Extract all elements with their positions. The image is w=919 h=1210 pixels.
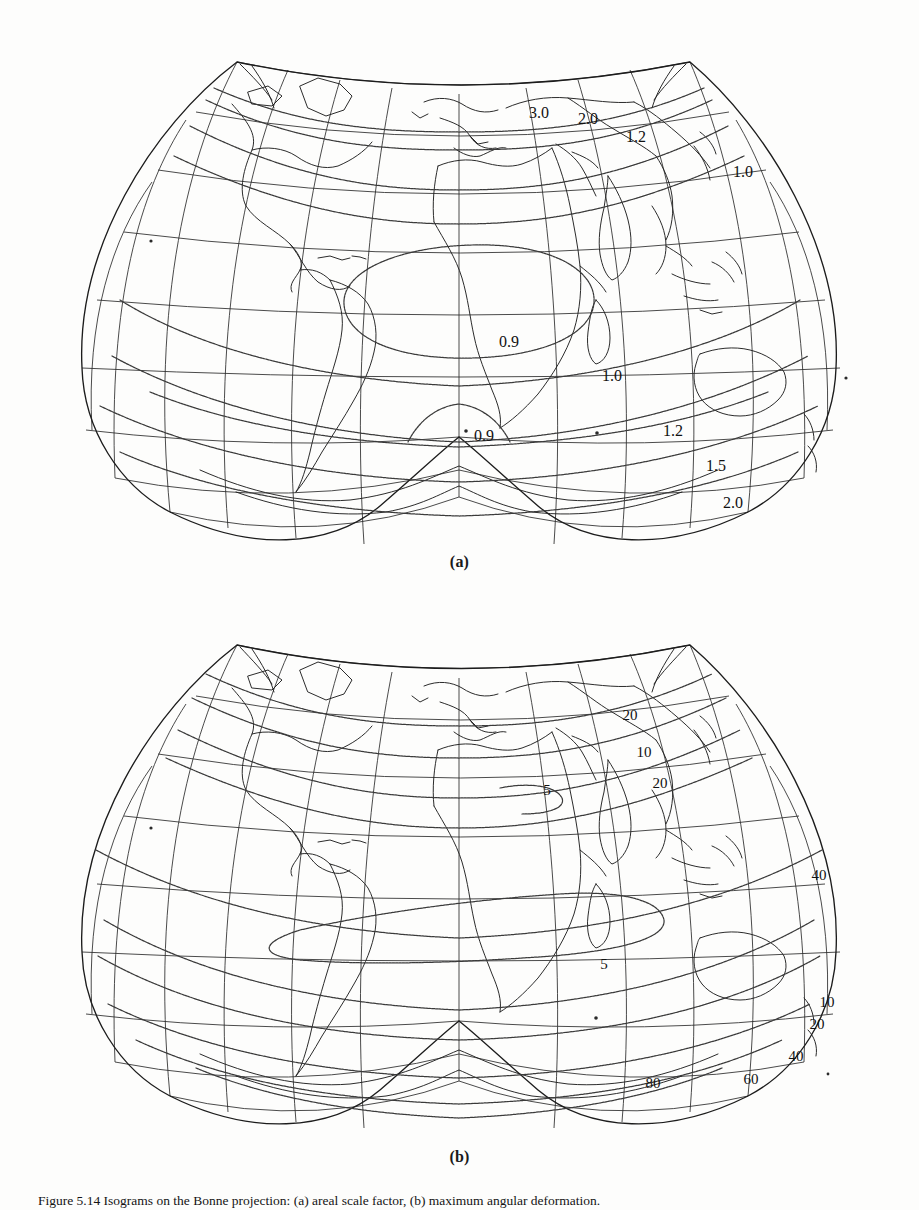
isoline-label-b-3: 20 bbox=[653, 775, 668, 791]
isoline-label-b-10: 80 bbox=[646, 1075, 661, 1091]
isoline-label-b-2: 5 bbox=[543, 782, 551, 798]
isoline-label-b-8: 40 bbox=[789, 1048, 804, 1064]
isoline-label-a-8: 1.5 bbox=[706, 457, 726, 474]
graticule-parallels-b bbox=[82, 645, 840, 1111]
isoline-label-a-6: 0.9 bbox=[474, 427, 494, 444]
figure-b: 20 10 5 20 40 5 10 20 40 60 80 (b) bbox=[0, 600, 919, 1180]
isoline-label-b-5: 5 bbox=[600, 956, 608, 972]
map-b-angular-deformation: 20 10 5 20 40 5 10 20 40 60 80 bbox=[0, 600, 919, 1180]
isoline-label-a-1: 2.0 bbox=[578, 110, 598, 127]
isoline-label-b-0: 20 bbox=[623, 707, 638, 723]
figure-a: 3.0 2.0 1.2 1.0 0.9 1.0 0.9 1.2 1.5 2.0 … bbox=[0, 0, 919, 600]
scan-specks-b bbox=[149, 826, 829, 1075]
isoline-label-a-7: 1.2 bbox=[663, 422, 683, 439]
isoline-label-a-0: 3.0 bbox=[529, 104, 549, 121]
isoline-label-b-4: 40 bbox=[812, 867, 827, 883]
isoline-label-a-4: 0.9 bbox=[499, 333, 519, 350]
isoline-label-b-7: 20 bbox=[810, 1016, 825, 1032]
isoline-label-a-2: 1.2 bbox=[626, 128, 646, 145]
isoline-label-b-6: 10 bbox=[820, 994, 835, 1010]
isoline-label-b-1: 10 bbox=[637, 744, 652, 760]
isoline-label-b-9: 60 bbox=[744, 1071, 759, 1087]
map-a-areal-scale-factor: 3.0 2.0 1.2 1.0 0.9 1.0 0.9 1.2 1.5 2.0 bbox=[0, 0, 919, 600]
isoline-label-a-9: 2.0 bbox=[723, 494, 743, 511]
figure-b-sub-label: (b) bbox=[0, 1148, 919, 1166]
figure-caption: Figure 5.14 Isograms on the Bonne projec… bbox=[38, 1192, 888, 1210]
isoline-label-a-5: 1.0 bbox=[602, 367, 622, 384]
graticule-meridians-b bbox=[91, 645, 828, 1128]
isoline-label-a-3: 1.0 bbox=[733, 163, 753, 180]
coastlines-b bbox=[200, 647, 817, 1098]
figure-a-sub-label: (a) bbox=[0, 553, 919, 571]
